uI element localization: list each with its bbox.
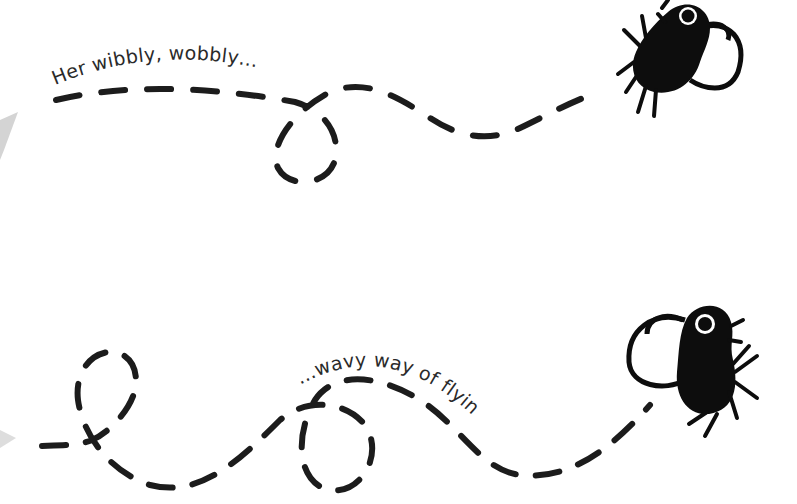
illustration-canvas: Her wibbly, wobbly… …wavy way of flying. (0, 0, 797, 504)
fly-eye (698, 317, 712, 331)
page-edge-bottom (0, 430, 16, 448)
flight-path-top (56, 87, 588, 182)
fly-eye (682, 10, 695, 23)
fly-bottom (629, 306, 757, 436)
fly-top (618, 0, 741, 116)
fly-body (633, 5, 710, 93)
fly-icon (618, 0, 741, 116)
flight-path-bottom (42, 352, 650, 491)
fly-icon (629, 306, 757, 436)
caption-top: Her wibbly, wobbly… (48, 42, 260, 89)
wing (629, 317, 685, 386)
book-page: Her wibbly, wobbly… …wavy way of flying. (0, 0, 797, 504)
page-edge-top (0, 112, 18, 160)
